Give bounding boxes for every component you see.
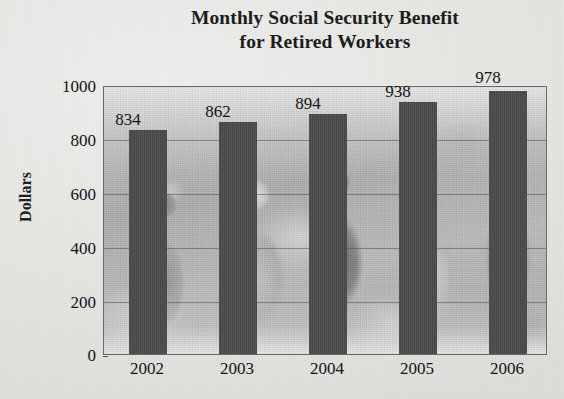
y-tick-label-1000: 1000 bbox=[36, 77, 96, 97]
bar-2002 bbox=[129, 130, 167, 354]
chart-title: Monthly Social Security Benefit for Reti… bbox=[103, 6, 547, 54]
value-label-2005: 938 bbox=[368, 82, 428, 102]
y-tick-text: 200 bbox=[71, 293, 97, 312]
x-tick-label-2002: 2002 bbox=[107, 359, 187, 379]
y-tick-label-400: 400 bbox=[36, 239, 96, 259]
y-tick-text: 400 bbox=[71, 239, 97, 258]
bar-2005 bbox=[399, 102, 437, 354]
chart-title-line-2: for Retired Workers bbox=[103, 30, 547, 54]
x-tick-label-2005: 2005 bbox=[377, 359, 457, 379]
y-tick-label-200: 200 bbox=[36, 293, 96, 313]
y-tick-label-0: 0 bbox=[36, 346, 96, 366]
value-label-2003: 862 bbox=[188, 102, 248, 122]
bar-2003 bbox=[219, 122, 257, 354]
value-label-2002: 834 bbox=[98, 110, 158, 130]
chart-title-line-1: Monthly Social Security Benefit bbox=[191, 7, 459, 28]
plot-area bbox=[103, 86, 547, 355]
y-tick-text: 1000 bbox=[62, 77, 96, 96]
y-tick-label-600: 600 bbox=[36, 185, 96, 205]
y-tick-label-800: 800 bbox=[36, 131, 96, 151]
chart-figure: Monthly Social Security Benefit for Reti… bbox=[0, 0, 564, 399]
x-tick-label-2003: 2003 bbox=[197, 359, 277, 379]
value-label-2004: 894 bbox=[278, 94, 338, 114]
value-label-2006: 978 bbox=[458, 68, 518, 88]
y-tick-mark bbox=[103, 356, 108, 357]
bar-2006 bbox=[489, 91, 527, 354]
bar-2004 bbox=[309, 114, 347, 354]
y-tick-text: 800 bbox=[71, 131, 97, 150]
x-tick-label-2006: 2006 bbox=[467, 359, 547, 379]
y-tick-text: 600 bbox=[71, 185, 97, 204]
y-tick-text: 0 bbox=[88, 346, 97, 365]
y-axis-title: Dollars bbox=[17, 157, 35, 237]
x-tick-label-2004: 2004 bbox=[287, 359, 367, 379]
